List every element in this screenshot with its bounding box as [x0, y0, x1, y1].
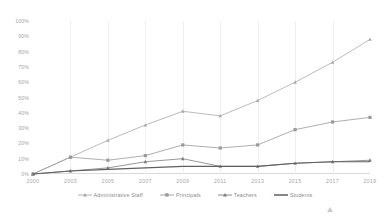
- line-marker-icon: [274, 192, 288, 198]
- x-tick-label: 2013: [251, 178, 264, 184]
- series-line: [33, 117, 370, 174]
- x-tick-label: 2009: [176, 178, 189, 184]
- x-tick-label: 2007: [139, 178, 152, 184]
- x-tick-label: 2003: [64, 178, 77, 184]
- triangle-marker-icon: [218, 192, 232, 198]
- legend-item-students[interactable]: Students: [274, 192, 312, 198]
- legend-label: Administrative Staff: [94, 192, 143, 198]
- series-lines: [33, 21, 370, 174]
- y-tick-label: 50%: [18, 95, 29, 101]
- series-students: [33, 162, 370, 174]
- chart-legend: Administrative StaffPrincipalsTeachersSt…: [0, 192, 390, 198]
- data-point-marker: [256, 143, 259, 146]
- data-point-marker: [181, 143, 184, 146]
- y-tick-label: 30%: [18, 125, 29, 131]
- data-point-marker: [368, 116, 371, 119]
- x-tick-label: 2019: [364, 178, 377, 184]
- y-tick-label: 70%: [18, 64, 29, 70]
- data-point-marker: [219, 146, 222, 149]
- x-tick-label: 2015: [289, 178, 302, 184]
- y-tick-label: 20%: [18, 140, 29, 146]
- y-tick-label: 60%: [18, 79, 29, 85]
- y-tick-label: 40%: [18, 110, 29, 116]
- data-point-marker: [293, 80, 297, 83]
- legend-item-administrative-staff[interactable]: Administrative Staff: [78, 192, 143, 198]
- data-point-marker: [368, 37, 372, 40]
- mouse-pointer-icon: [327, 207, 333, 212]
- line-chart: 100%90%80%70%60%50%40%30%20%10%0% 200020…: [0, 0, 390, 216]
- square-marker-icon: [160, 192, 174, 198]
- plot-area: 100%90%80%70%60%50%40%30%20%10%0% 200020…: [33, 21, 370, 174]
- data-point-marker: [331, 60, 335, 63]
- data-point-marker: [294, 128, 297, 131]
- y-tick-label: 80%: [18, 49, 29, 55]
- triangle-marker-icon: [78, 192, 92, 198]
- data-point-marker: [144, 154, 147, 157]
- x-tick-label: 2017: [326, 178, 339, 184]
- y-tick-label: 100%: [15, 18, 29, 24]
- legend-item-teachers[interactable]: Teachers: [218, 192, 257, 198]
- legend-label: Teachers: [234, 192, 257, 198]
- legend-label: Students: [290, 192, 312, 198]
- series-line: [33, 39, 370, 174]
- data-point-marker: [69, 156, 72, 159]
- data-point-marker: [331, 120, 334, 123]
- data-point-marker: [106, 159, 109, 162]
- series-line: [33, 162, 370, 174]
- y-tick-label: 0%: [21, 171, 29, 177]
- y-tick-label: 10%: [18, 156, 29, 162]
- y-tick-label: 90%: [18, 33, 29, 39]
- x-tick-label: 2011: [214, 178, 227, 184]
- legend-label: Principals: [176, 192, 201, 198]
- legend-item-principals[interactable]: Principals: [160, 192, 201, 198]
- x-tick-label: 2000: [27, 178, 40, 184]
- x-tick-label: 2005: [101, 178, 114, 184]
- series-administrative-staff: [31, 37, 372, 175]
